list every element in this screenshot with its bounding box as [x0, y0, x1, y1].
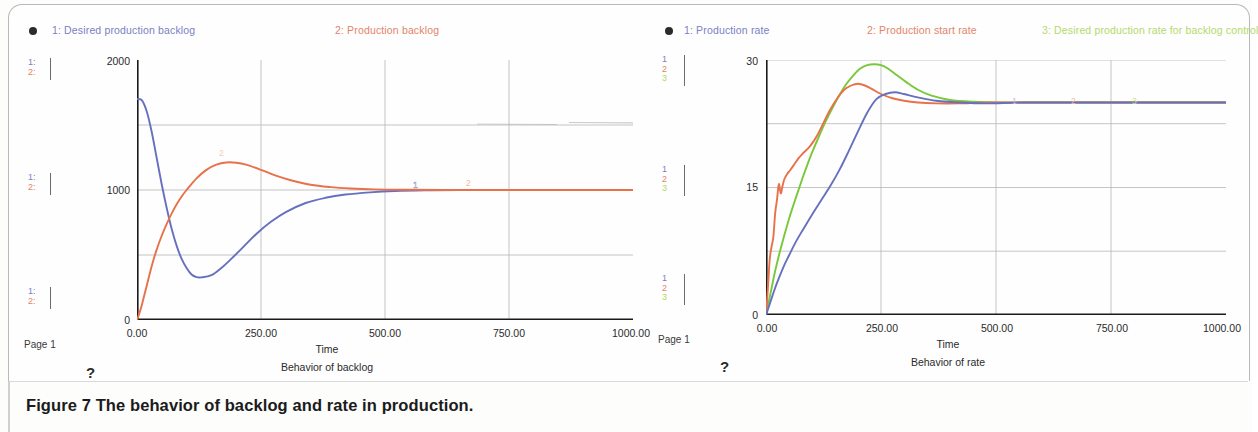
- help-icon-left[interactable]: ?: [86, 364, 95, 381]
- figure-caption: Figure 7 The behavior of backlog and rat…: [26, 396, 1026, 415]
- y-tick-label-15: 15: [710, 181, 758, 193]
- page-label-right: Page 1: [658, 334, 690, 345]
- legend-item-production-rate: 1: Production rate: [684, 24, 770, 36]
- y-tick-label-0: 0: [72, 314, 130, 326]
- x-tick-label-0: 0.00: [741, 322, 793, 334]
- scale-marker-group-top: 1 2 3: [662, 55, 688, 84]
- x-tick-label-250: 250.00: [856, 322, 908, 334]
- inline-label-1: 1: [1012, 96, 1017, 106]
- legend-marker-icon: [665, 27, 673, 35]
- scale-marker-group-middle: 1: 2:: [28, 173, 54, 192]
- scale-marker-group-middle: 1 2 3: [662, 165, 688, 194]
- chart-title-left: Behavior of backlog: [12, 361, 642, 373]
- x-tick-label-500: 500.00: [359, 327, 411, 339]
- legend-right: 1: Production rate 2: Production start r…: [648, 24, 1248, 40]
- inline-label-3: 3: [1132, 96, 1137, 106]
- help-icon-right[interactable]: ?: [720, 358, 729, 375]
- chart-title-right: Behavior of rate: [648, 356, 1248, 368]
- chart-rate: 1 2 3: [766, 60, 1226, 315]
- legend-left: 1: Desired production backlog 2: Product…: [12, 24, 642, 40]
- caption-side-bar: [8, 381, 10, 432]
- scan-artifacts-backlog: [477, 123, 633, 125]
- caption-divider: [8, 381, 1248, 382]
- x-axis-title-left: Time: [12, 343, 642, 355]
- scale-marker-group-top: 1: 2:: [28, 58, 54, 77]
- x-tick-label-0: 0.00: [111, 327, 163, 339]
- scale-marker-group-bottom: 1 2 3: [662, 274, 688, 303]
- chart-backlog-svg: 1 2 2: [137, 60, 633, 320]
- inline-label-2: 2: [466, 178, 471, 188]
- inline-label-2: 2: [1071, 96, 1076, 106]
- chart-rate-svg: 1 2 3: [766, 60, 1226, 315]
- x-tick-label-250: 250.00: [235, 327, 287, 339]
- chart-backlog: 1 2 2: [137, 60, 633, 320]
- legend-item-production-start-rate: 2: Production start rate: [867, 24, 977, 36]
- y-tick-label-30: 30: [710, 55, 758, 67]
- y-tick-label-0: 0: [710, 309, 758, 321]
- x-axis-title-right: Time: [648, 338, 1248, 350]
- x-tick-label-500: 500.00: [971, 322, 1023, 334]
- scale-marker-group-bottom: 1: 2:: [28, 287, 54, 306]
- y-tick-label-1000: 1000: [72, 184, 130, 196]
- panel-backlog: 1: Desired production backlog 2: Product…: [12, 10, 642, 375]
- panel-rate: 1: Production rate 2: Production start r…: [648, 10, 1248, 375]
- inline-label-1: 1: [413, 180, 418, 190]
- y-tick-label-2000: 2000: [72, 55, 130, 67]
- legend-item-production-backlog: 2: Production backlog: [335, 24, 439, 36]
- page-label-left: Page 1: [24, 339, 56, 350]
- x-tick-label-1000: 1000.00: [1194, 322, 1250, 334]
- inline-label-2-peak: 2: [219, 148, 224, 158]
- legend-item-desired-production-rate-backlog-control: 3: Desired production rate for backlog c…: [1042, 24, 1258, 36]
- gridlines-rate: [766, 60, 1226, 315]
- legend-item-desired-production-backlog: 1: Desired production backlog: [52, 24, 195, 36]
- x-tick-label-750: 750.00: [1086, 322, 1138, 334]
- legend-marker-icon: [29, 27, 37, 35]
- x-tick-label-750: 750.00: [483, 327, 535, 339]
